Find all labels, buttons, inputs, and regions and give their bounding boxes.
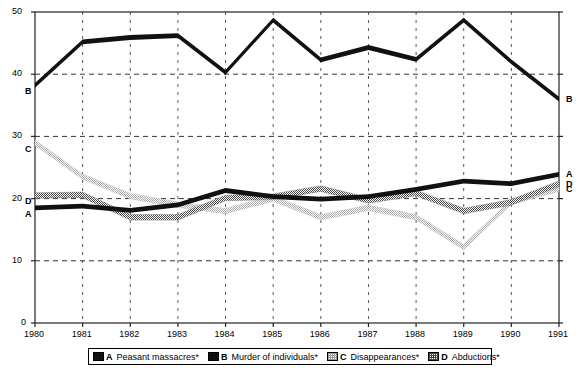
y-tick-50: 50 (12, 6, 22, 16)
legend-swatch-A (93, 352, 104, 361)
grid-lines (35, 12, 559, 323)
legend-swatch-C (327, 352, 338, 361)
x-tick-1989: 1989 (453, 329, 473, 339)
left-series-label-C: C (25, 144, 32, 154)
legend-entry-C: CDisappearances* (327, 352, 419, 362)
right-series-label-B: B (566, 94, 573, 104)
legend-key-A: A (106, 352, 113, 362)
legend-swatch-B (208, 352, 219, 361)
right-series-label-C: C (566, 184, 573, 194)
x-tick-1991: 1991 (548, 329, 568, 339)
x-tick-1990: 1990 (500, 329, 520, 339)
left-series-label-D: D (25, 196, 32, 206)
chart-legend: APeasant massacres*BMurder of individual… (88, 348, 492, 365)
legend-entry-D: DAbductions* (428, 352, 500, 362)
x-tick-1988: 1988 (405, 329, 425, 339)
legend-swatch-D (428, 352, 439, 361)
legend-label-C: Disappearances* (351, 352, 420, 362)
left-series-label-A: A (25, 209, 32, 219)
x-tick-1982: 1982 (119, 329, 139, 339)
line-chart-plot (0, 0, 579, 372)
left-series-label-B: B (25, 86, 32, 96)
plot-frame (31, 12, 563, 327)
legend-key-D: D (441, 352, 448, 362)
x-tick-1980: 1980 (24, 329, 44, 339)
y-tick-30: 30 (12, 130, 22, 140)
legend-key-C: C (340, 352, 347, 362)
legend-key-B: B (221, 352, 228, 362)
legend-entry-A: APeasant massacres* (93, 352, 199, 362)
legend-label-A: Peasant massacres* (117, 352, 200, 362)
y-tick-0: 0 (21, 317, 26, 327)
y-tick-40: 40 (12, 68, 22, 78)
series-B (35, 18, 559, 102)
x-tick-1986: 1986 (310, 329, 330, 339)
legend-label-B: Murder of individuals* (232, 352, 319, 362)
x-tick-1981: 1981 (72, 329, 92, 339)
x-tick-1987: 1987 (357, 329, 377, 339)
legend-entry-B: BMurder of individuals* (208, 352, 318, 362)
x-tick-1983: 1983 (167, 329, 187, 339)
x-tick-1985: 1985 (262, 329, 282, 339)
series-lines (35, 18, 559, 250)
x-tick-1984: 1984 (215, 329, 235, 339)
y-tick-10: 10 (12, 255, 22, 265)
chart-root: 01020304050 1980198119821983198419851986… (0, 0, 579, 372)
y-tick-20: 20 (12, 193, 22, 203)
legend-label-D: Abductions* (452, 352, 500, 362)
